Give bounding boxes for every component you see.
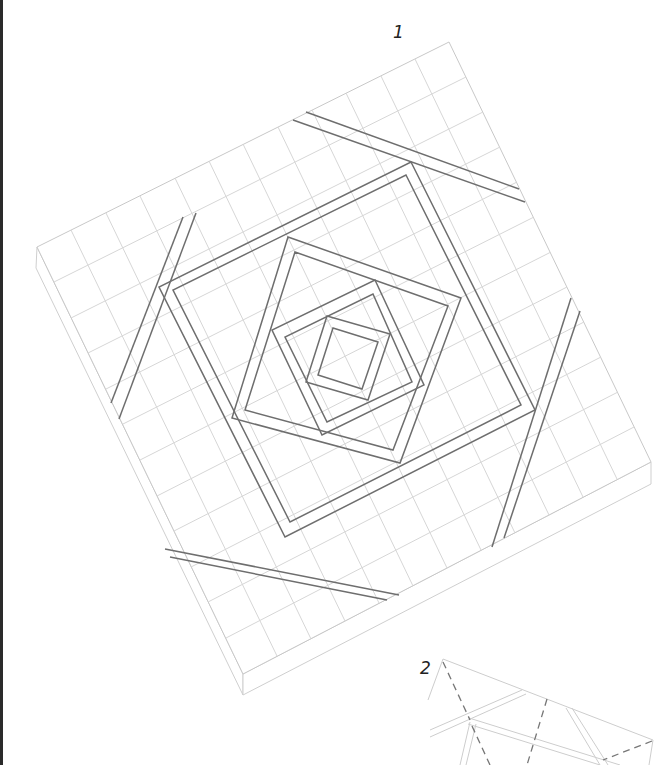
figure-2	[428, 659, 653, 765]
fig2-fold-dashed-2	[472, 726, 490, 765]
fig2-right-edge	[649, 740, 653, 765]
figure-1-label: 1	[393, 24, 404, 41]
fig2-fold-dashed-4	[603, 741, 652, 760]
fig2-fold-dashed-1	[443, 662, 470, 720]
fig2-top-edge	[443, 659, 653, 740]
figure-2-label: 2	[420, 660, 431, 677]
diagram-canvas	[0, 0, 671, 765]
figure-1	[36, 42, 651, 695]
fig2-fold-dashed-3	[527, 699, 547, 765]
